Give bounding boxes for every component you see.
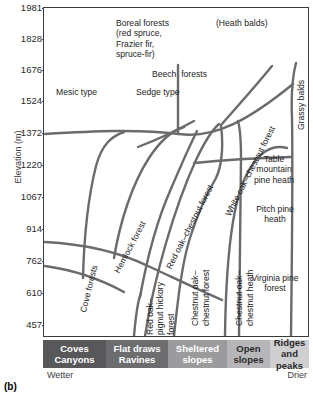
y-tick-label: 610 bbox=[8, 288, 42, 298]
label-chestnut-oak-chestnut-heath: Chestnut oak– chestnut heath bbox=[234, 270, 255, 326]
y-tick-label: 1067 bbox=[8, 192, 42, 202]
panel-caption: (b) bbox=[4, 381, 17, 392]
axis-end-wetter: Wetter bbox=[47, 370, 73, 380]
y-tick-label: 457 bbox=[8, 320, 42, 330]
y-tick-label: 762 bbox=[8, 256, 42, 266]
label-boreal-forests: Boreal forests (red spruce, Frazier fir,… bbox=[116, 18, 169, 60]
y-tick-label: 1372 bbox=[8, 128, 42, 138]
figure-root: Elevation (m) 1981 1828 1676 1524 1372 1… bbox=[0, 0, 313, 398]
label-beech-sedge-type: Sedge type bbox=[136, 87, 179, 97]
vegetation-elevation-diagram: Elevation (m) 1981 1828 1676 1524 1372 1… bbox=[0, 0, 313, 398]
y-tick-label: 1828 bbox=[8, 34, 42, 44]
y-tick-label: 1981 bbox=[8, 3, 42, 13]
y-tick-label: 1220 bbox=[8, 160, 42, 170]
label-grassy-balds: Grassy balds bbox=[296, 80, 306, 130]
plot-area: Boreal forests (red spruce, Frazier fir,… bbox=[43, 7, 309, 337]
label-beech-forests: Beech forests bbox=[152, 69, 207, 79]
y-tick-label: 1676 bbox=[8, 65, 42, 75]
legend-segment-open-slopes[interactable]: Open slopes bbox=[227, 340, 270, 368]
boundary-hemlock-right bbox=[140, 131, 197, 297]
boundary-red-oak-pignut-stem bbox=[134, 293, 141, 336]
legend-segment-flat-draws-ravines[interactable]: Flat draws Ravines bbox=[106, 340, 168, 368]
moisture-gradient-legend: Coves Canyons Flat draws Ravines Shelter… bbox=[43, 340, 309, 368]
y-axis-ticks: 1981 1828 1676 1524 1372 1220 1067 914 7… bbox=[4, 0, 42, 398]
y-tick-label: 1524 bbox=[8, 96, 42, 106]
boundary-hemlock-left bbox=[114, 127, 184, 258]
boundary-cove-forests bbox=[83, 132, 124, 278]
label-heath-balds: (Heath balds) bbox=[216, 18, 268, 28]
label-chestnut-oak-chestnut-forest: Chestnut oak– chestnut forest bbox=[190, 270, 211, 326]
label-beech-mesic-type: Mesic type bbox=[56, 87, 97, 97]
label-red-oak-pignut-hickory-forest: Red oak– pignut hickory forest bbox=[145, 282, 176, 335]
label-pitch-pine-heath: Pitch pine heath bbox=[244, 204, 306, 225]
legend-segment-coves-canyons[interactable]: Coves Canyons bbox=[43, 340, 106, 368]
legend-segment-ridges-and-peaks[interactable]: Ridges and peaks bbox=[270, 340, 309, 368]
legend-segment-sheltered-slopes[interactable]: Sheltered slopes bbox=[168, 340, 227, 368]
y-tick-label: 914 bbox=[8, 224, 42, 234]
axis-end-drier: Drier bbox=[288, 370, 308, 380]
